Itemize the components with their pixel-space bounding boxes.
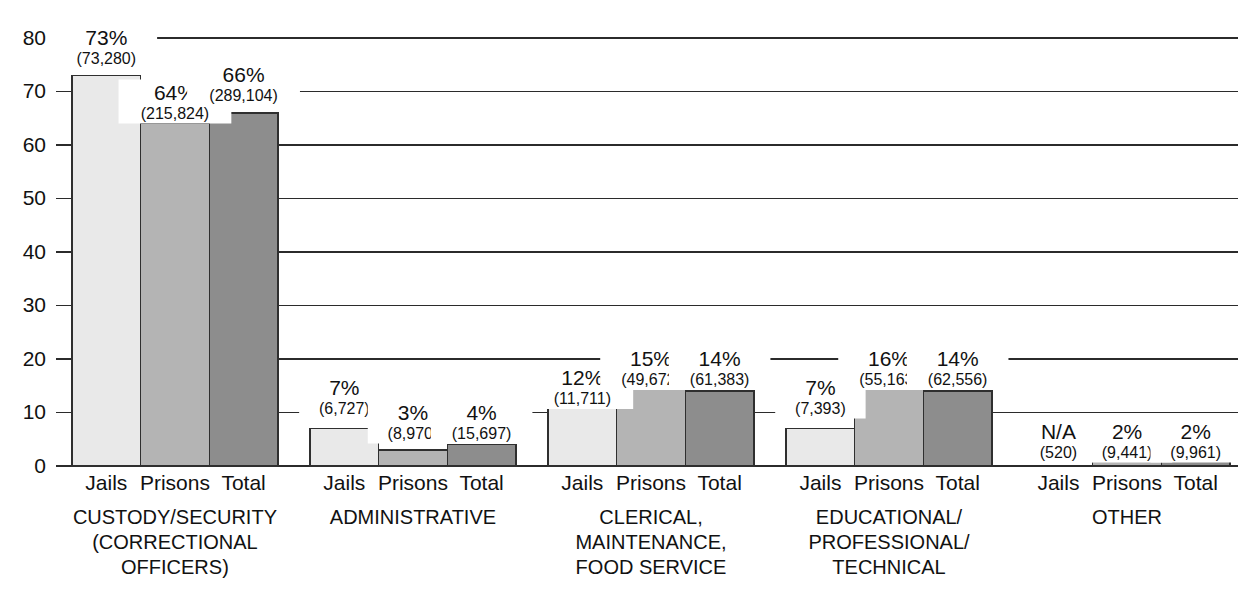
- bar-jails: [548, 402, 617, 466]
- series-label-jails: Jails: [1037, 471, 1079, 494]
- group1-prisons-count-label: (215,824): [141, 105, 210, 122]
- bar-prisons: [379, 450, 448, 466]
- group4-jails-count-label: (7,393): [795, 400, 846, 417]
- series-label-jails: Jails: [561, 471, 603, 494]
- category-labels-layer: CUSTODY/SECURITY(CORRECTIONALOFFICERS)AD…: [73, 506, 1162, 578]
- group4-prisons-percent-label: 16%: [868, 347, 910, 370]
- y-axis-tick-label: 60: [23, 133, 46, 156]
- group1-jails-percent-label: 73%: [85, 26, 127, 49]
- series-label-jails: Jails: [799, 471, 841, 494]
- bar-prisons: [141, 124, 210, 466]
- category-label-line: CUSTODY/SECURITY: [73, 506, 277, 528]
- group1-total-percent-label: 66%: [223, 63, 265, 86]
- y-axis-tick-label: 70: [23, 79, 46, 102]
- group2-total-percent-label: 4%: [466, 401, 496, 424]
- group5-prisons-count-label: (9,441): [1102, 444, 1153, 461]
- bar-total: [923, 391, 992, 466]
- y-axis-tick-label: 30: [23, 293, 46, 316]
- series-label-prisons: Prisons: [1092, 471, 1162, 494]
- group1-total-count-label: (289,104): [209, 87, 278, 104]
- bar-jails: [786, 429, 855, 466]
- group5-jails-percent-label: N/A: [1041, 420, 1076, 443]
- group2-jails-count-label: (6,727): [319, 400, 370, 417]
- group5-prisons-percent-label: 2%: [1112, 420, 1142, 443]
- bar-jails: [72, 75, 141, 466]
- category-label-line: PROFESSIONAL/: [808, 531, 970, 553]
- category-label-line: OTHER: [1092, 506, 1162, 528]
- group5-total-percent-label: 2%: [1181, 420, 1211, 443]
- category-label-line: (CORRECTIONAL: [92, 531, 258, 553]
- y-axis-tick-label: 80: [23, 26, 46, 49]
- series-label-total: Total: [697, 471, 741, 494]
- group4-jails-percent-label: 7%: [805, 376, 835, 399]
- group2-jails-percent-label: 7%: [329, 376, 359, 399]
- series-label-prisons: Prisons: [378, 471, 448, 494]
- y-axis-tick-label: 20: [23, 347, 46, 370]
- group3-prisons-percent-label: 15%: [630, 347, 672, 370]
- group4-total-percent-label: 14%: [937, 347, 979, 370]
- series-label-total: Total: [221, 471, 265, 494]
- series-label-prisons: Prisons: [616, 471, 686, 494]
- y-axis-tick-label: 0: [34, 454, 46, 477]
- series-label-prisons: Prisons: [140, 471, 210, 494]
- category-label-line: TECHNICAL: [832, 556, 945, 578]
- group3-jails-count-label: (11,711): [554, 390, 611, 407]
- group2-prisons-count-label: (8,970): [388, 425, 439, 442]
- group3-total-percent-label: 14%: [699, 347, 741, 370]
- series-label-jails: Jails: [85, 471, 127, 494]
- y-axis-tick-label: 50: [23, 186, 46, 209]
- category-label-line: EDUCATIONAL/: [816, 506, 963, 528]
- y-axis-tick-label: 10: [23, 400, 46, 423]
- group3-jails-percent-label: 12%: [561, 366, 603, 389]
- group2-prisons-percent-label: 3%: [398, 401, 428, 424]
- bar-total: [685, 391, 754, 466]
- category-label-line: OFFICERS): [121, 556, 229, 578]
- category-label-line: FOOD SERVICE: [576, 556, 727, 578]
- group5-total-count-label: (9,961): [1170, 444, 1221, 461]
- group5-jails-count-label: (520): [1040, 444, 1077, 461]
- group1-jails-count-label: (73,280): [77, 50, 137, 67]
- series-labels-layer: JailsPrisonsTotalJailsPrisonsTotalJailsP…: [85, 471, 1218, 494]
- series-label-total: Total: [459, 471, 503, 494]
- series-label-total: Total: [935, 471, 979, 494]
- series-label-jails: Jails: [323, 471, 365, 494]
- group2-total-count-label: (15,697): [452, 425, 512, 442]
- series-label-total: Total: [1174, 471, 1218, 494]
- bars-layer: [72, 75, 1230, 466]
- series-label-prisons: Prisons: [854, 471, 924, 494]
- y-axis-tick-label: 40: [23, 240, 46, 263]
- bar-total: [447, 445, 516, 466]
- chart-canvas: 01020304050607080 73%(73,280)64%(215,824…: [0, 0, 1257, 602]
- category-label-line: CLERICAL,: [599, 506, 702, 528]
- group4-total-count-label: (62,556): [928, 371, 988, 388]
- category-label-line: ADMINISTRATIVE: [330, 506, 496, 528]
- grouped-bar-chart: 01020304050607080 73%(73,280)64%(215,824…: [0, 0, 1257, 602]
- group3-total-count-label: (61,383): [690, 371, 750, 388]
- category-label-line: MAINTENANCE,: [575, 531, 726, 553]
- bar-total: [209, 113, 278, 466]
